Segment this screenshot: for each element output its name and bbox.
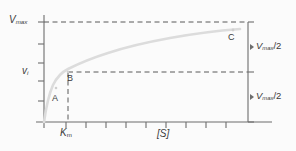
point-a-label: A: [52, 94, 58, 103]
bracket-label-lower-half: Vmax/2: [256, 91, 281, 102]
km-k-glyph: K: [60, 127, 67, 138]
half-bot-sub-glyph: max: [262, 95, 273, 101]
vmax-sub-glyph: max: [16, 18, 28, 25]
michaelis-menten-figure: Vmax vi Km [S] A B C Vmax/2 Vmax/2: [0, 0, 296, 151]
bracket-label-upper-half: Vmax/2: [256, 41, 281, 52]
y-axis-vi-label: vi: [22, 66, 28, 77]
point-a-marker: [55, 87, 58, 90]
x-axis-substrate-label: [S]: [157, 129, 169, 139]
half-top-div-glyph: /2: [273, 40, 281, 51]
y-axis-vmax-label: Vmax: [9, 15, 27, 26]
half-top-sub-glyph: max: [262, 45, 273, 51]
vmax-v-glyph: V: [9, 14, 16, 25]
plot-svg: [0, 0, 296, 151]
vi-sub-glyph: i: [27, 69, 28, 76]
point-c-marker: [232, 29, 235, 32]
half-bot-div-glyph: /2: [273, 90, 281, 101]
point-b-label: B: [67, 74, 73, 83]
km-sub-glyph: m: [67, 131, 72, 138]
point-c-label: C: [228, 33, 235, 42]
s-bracket-glyph: [S]: [157, 128, 169, 139]
x-axis-km-label: Km: [60, 128, 72, 139]
